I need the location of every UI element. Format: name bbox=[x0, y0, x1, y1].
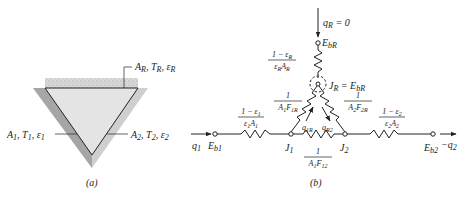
svg-text:ε1A1: ε1A1 bbox=[244, 119, 258, 129]
figure-b-labels: qR = 0 EbR 1 − εR εRAR JR = EbR 1 A1F1R … bbox=[192, 17, 457, 189]
node-j-r bbox=[316, 82, 320, 86]
svg-text:1: 1 bbox=[286, 91, 290, 100]
label-resistance-space-1r: 1 A1F1R bbox=[274, 91, 302, 113]
label-e-b1: Eb1 bbox=[207, 140, 222, 153]
resistor-space-12 bbox=[293, 130, 343, 138]
resistor-surface-1 bbox=[217, 130, 289, 138]
svg-text:1: 1 bbox=[356, 91, 360, 100]
label-e-b2: Eb2 bbox=[423, 142, 438, 155]
caption-a: (a) bbox=[86, 177, 98, 189]
svg-text:1: 1 bbox=[316, 147, 320, 156]
label-j-1: J1 bbox=[285, 142, 293, 155]
svg-text:ε2A2: ε2A2 bbox=[385, 119, 399, 129]
label-minus-q-2: −q2 bbox=[441, 139, 457, 152]
node-e-b2 bbox=[431, 132, 435, 136]
node-j-2 bbox=[343, 132, 347, 136]
label-q-r2: qR2 bbox=[322, 123, 333, 133]
label-q-r: qR = 0 bbox=[323, 17, 350, 30]
svg-text:A2F2R: A2F2R bbox=[347, 103, 368, 113]
q-r2-arrow bbox=[322, 107, 330, 121]
node-e-b1 bbox=[213, 132, 217, 136]
label-resistance-surface-1: 1 − ε1 ε1A1 bbox=[238, 107, 264, 129]
q-1r-arrow bbox=[306, 107, 313, 121]
node-j-1 bbox=[289, 132, 293, 136]
resistor-surface-r bbox=[314, 45, 322, 78]
label-surface-r: AR, TR, εR bbox=[134, 61, 175, 74]
figure-a-triangular-enclosure: AR, TR, εR A1, T1, ε1 A2, T2, ε2 (a) bbox=[6, 61, 175, 189]
svg-text:1 − ε2: 1 − ε2 bbox=[382, 107, 402, 117]
label-resistance-surface-r: 1 − εR εRAR bbox=[268, 50, 296, 72]
svg-text:1 − εR: 1 − εR bbox=[272, 50, 293, 60]
label-j-2: J2 bbox=[340, 142, 348, 155]
svg-text:1 − ε1: 1 − ε1 bbox=[241, 107, 261, 117]
svg-text:A1F1R: A1F1R bbox=[277, 103, 298, 113]
label-e-br: EbR bbox=[321, 37, 337, 50]
caption-b: (b) bbox=[310, 177, 322, 189]
label-resistance-space-2r: 1 A2F2R bbox=[344, 91, 372, 113]
label-q-1: q1 bbox=[192, 140, 201, 153]
label-surface-2: A2, T2, ε2 bbox=[130, 129, 169, 142]
label-q-1r: q1R bbox=[302, 123, 313, 133]
label-resistance-surface-2: 1 − ε2 ε2A2 bbox=[379, 107, 405, 129]
svg-text:εRAR: εRAR bbox=[274, 62, 290, 72]
node-e-br bbox=[316, 41, 320, 45]
svg-text:A1F12: A1F12 bbox=[308, 159, 328, 169]
label-resistance-space-12: 1 A1F12 bbox=[304, 147, 332, 169]
radiation-network-diagram: AR, TR, εR A1, T1, ε1 A2, T2, ε2 (a) bbox=[0, 0, 458, 203]
label-surface-1: A1, T1, ε1 bbox=[6, 129, 45, 142]
resistor-surface-2 bbox=[347, 130, 431, 138]
